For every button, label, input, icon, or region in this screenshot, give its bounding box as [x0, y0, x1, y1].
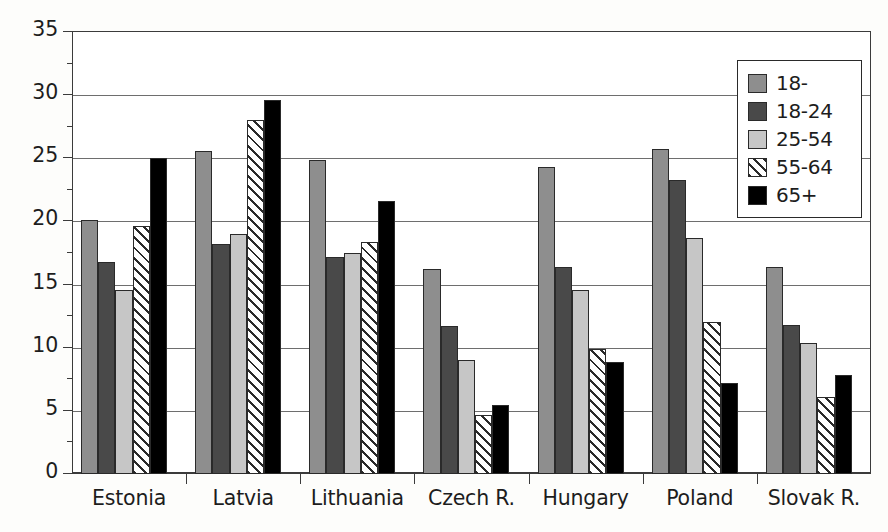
x-axis-tick-label: Poland	[643, 486, 757, 510]
bar	[195, 151, 212, 474]
bar	[669, 180, 686, 474]
bar	[835, 375, 852, 474]
bar	[606, 362, 623, 474]
bar	[800, 343, 817, 474]
legend-swatch-icon	[748, 186, 767, 205]
x-axis-tick-label: Latvia	[186, 486, 300, 510]
x-axis-tick	[300, 473, 301, 484]
bar	[361, 242, 378, 474]
bar	[230, 234, 247, 474]
bar	[492, 405, 509, 474]
x-axis-tick-label: Slovak R.	[757, 486, 871, 510]
legend-item: 18-24	[748, 97, 852, 125]
bar	[458, 360, 475, 474]
legend-swatch-icon	[748, 130, 767, 149]
legend-item: 55-64	[748, 153, 852, 181]
y-axis-tick	[63, 31, 72, 32]
bar	[378, 201, 395, 474]
bar	[115, 290, 132, 474]
legend-swatch-icon	[748, 102, 767, 121]
legend-item-label: 55-64	[776, 155, 833, 179]
y-axis-tick-label: 30	[0, 80, 58, 104]
y-axis-tick-label: 5	[0, 396, 58, 420]
y-axis-tick	[63, 94, 72, 95]
bar	[98, 262, 115, 474]
y-axis-minor-tick	[67, 441, 72, 442]
legend-item: 65+	[748, 181, 852, 209]
bar	[344, 253, 361, 474]
y-axis-minor-tick	[67, 126, 72, 127]
gridline	[73, 221, 870, 222]
x-axis-tick	[186, 473, 187, 484]
y-axis-minor-tick	[67, 63, 72, 64]
bar	[721, 383, 738, 474]
y-axis-minor-tick	[67, 315, 72, 316]
gridline	[73, 348, 870, 349]
y-axis-tick	[63, 284, 72, 285]
bar	[686, 238, 703, 474]
bar	[783, 325, 800, 474]
y-axis-minor-tick	[67, 378, 72, 379]
y-axis-tick-label: 0	[0, 459, 58, 483]
y-axis-tick	[63, 410, 72, 411]
bar	[766, 267, 783, 474]
bar	[555, 267, 572, 474]
bar	[309, 160, 326, 474]
bar	[589, 349, 606, 474]
y-axis-tick-label: 35	[0, 17, 58, 41]
bar	[441, 326, 458, 474]
x-axis-tick-label: Hungary	[529, 486, 643, 510]
bar	[817, 397, 834, 474]
bar	[326, 257, 343, 474]
bar	[652, 149, 669, 474]
y-axis-tick-label: 15	[0, 270, 58, 294]
x-axis-tick	[643, 473, 644, 484]
y-axis-tick	[63, 157, 72, 158]
bar	[150, 158, 167, 474]
x-axis-tick-label: Lithuania	[300, 486, 414, 510]
gridline	[73, 285, 870, 286]
bar	[247, 120, 264, 474]
bar	[212, 244, 229, 474]
x-axis-tick-label: Estonia	[72, 486, 186, 510]
legend-item-label: 65+	[776, 183, 817, 207]
y-axis-tick	[63, 473, 72, 474]
legend: 18-18-2425-5455-6465+	[737, 60, 862, 218]
y-axis-tick-label: 20	[0, 206, 58, 230]
y-axis-tick-label: 10	[0, 333, 58, 357]
legend-item: 18-	[748, 69, 852, 97]
bar	[264, 100, 281, 474]
x-axis-tick-label: Czech R.	[414, 486, 528, 510]
y-axis-minor-tick	[67, 252, 72, 253]
bar	[423, 269, 440, 474]
bar	[538, 167, 555, 474]
legend-item-label: 25-54	[776, 127, 833, 151]
bar	[475, 415, 492, 474]
x-axis-tick	[757, 473, 758, 484]
y-axis-tick	[63, 347, 72, 348]
bar-chart: 05101520253035 EstoniaLatviaLithuaniaCze…	[0, 0, 888, 532]
y-axis-tick-label: 25	[0, 143, 58, 167]
y-axis-tick	[63, 220, 72, 221]
legend-swatch-icon	[748, 74, 767, 93]
y-axis-minor-tick	[67, 189, 72, 190]
legend-item-label: 18-	[776, 71, 808, 95]
y-axis-line	[72, 31, 73, 473]
bar	[703, 322, 720, 474]
bar	[81, 220, 98, 474]
legend-item: 25-54	[748, 125, 852, 153]
x-axis-tick	[414, 473, 415, 484]
legend-items: 18-18-2425-5455-6465+	[748, 69, 852, 209]
x-axis-tick	[529, 473, 530, 484]
legend-swatch-icon	[748, 158, 767, 177]
legend-item-label: 18-24	[776, 99, 833, 123]
bar	[572, 290, 589, 474]
bar	[133, 226, 150, 474]
